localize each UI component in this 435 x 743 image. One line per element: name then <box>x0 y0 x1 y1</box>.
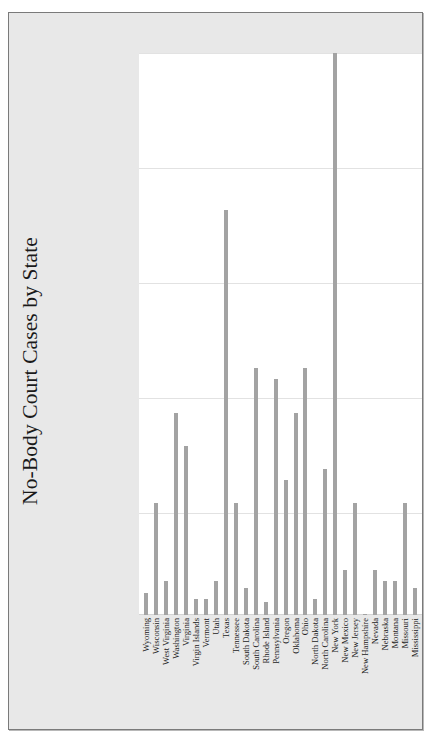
x-label-slot: Nebraska <box>380 616 390 728</box>
chart-title-container: No-Body Court Cases by State <box>9 13 47 729</box>
bar-slot <box>360 53 370 615</box>
x-label-slot: Texas <box>221 616 231 728</box>
x-axis-label: Virgin Islands <box>191 618 201 666</box>
x-label-slot: Washington <box>171 616 181 728</box>
bar-slot <box>251 53 261 615</box>
x-axis-label: Nebraska <box>380 618 390 650</box>
x-label-slot: Utah <box>211 616 221 728</box>
x-axis-label: Montana <box>390 618 400 649</box>
x-label-slot: Mississippi <box>410 616 420 728</box>
bar-slot <box>271 53 281 615</box>
bar[interactable] <box>214 581 218 615</box>
x-axis-label: Texas <box>221 618 231 638</box>
bar[interactable] <box>244 588 248 615</box>
x-axis-label: Ohio <box>300 618 310 635</box>
bar-slot <box>340 53 350 615</box>
bar[interactable] <box>303 368 307 615</box>
bar[interactable] <box>333 53 337 615</box>
bar-slot <box>380 53 390 615</box>
x-label-slot: Rhode Island <box>261 616 271 728</box>
bar[interactable] <box>284 480 288 615</box>
x-axis-label: Vermont <box>201 618 211 648</box>
x-axis-label: North Carolina <box>320 618 330 670</box>
x-axis-label: Utah <box>211 618 221 635</box>
x-label-slot: Pennsylvania <box>271 616 281 728</box>
bar-slot <box>141 53 151 615</box>
bar-slot <box>191 53 201 615</box>
x-axis-label: Pennsylvania <box>271 618 281 664</box>
bar-slot <box>231 53 241 615</box>
x-axis-label: New York <box>330 618 340 653</box>
x-label-slot: Wisconsin <box>151 616 161 728</box>
x-axis-label: Nevada <box>370 618 380 644</box>
bar[interactable] <box>164 581 168 615</box>
x-label-slot: Ohio <box>301 616 311 728</box>
bar-slot <box>400 53 410 615</box>
x-axis-label: Washington <box>171 618 181 659</box>
bar-slot <box>171 53 181 615</box>
x-label-slot: Oregon <box>281 616 291 728</box>
bar-slot <box>151 53 161 615</box>
x-label-slot: New Jersey <box>350 616 360 728</box>
bar[interactable] <box>393 581 397 615</box>
x-axis-label: Missouri <box>400 618 410 649</box>
bar[interactable] <box>343 570 347 615</box>
bar[interactable] <box>383 581 387 615</box>
x-label-slot: Tennessee <box>231 616 241 728</box>
bar[interactable] <box>154 503 158 615</box>
bar-slot <box>330 53 340 615</box>
bar[interactable] <box>234 503 238 615</box>
bar[interactable] <box>313 599 317 615</box>
bar[interactable] <box>194 599 198 615</box>
bar-slot <box>320 53 330 615</box>
bar-slot <box>281 53 291 615</box>
chart-frame: No-Body Court Cases by State WyomingWisc… <box>8 12 423 730</box>
x-label-slot: Nevada <box>370 616 380 728</box>
bar-slot <box>241 53 251 615</box>
bar[interactable] <box>363 614 367 615</box>
x-axis-label: West Virginia <box>161 618 171 665</box>
bar[interactable] <box>323 469 327 615</box>
bar-slot <box>301 53 311 615</box>
bar-slot <box>390 53 400 615</box>
bar-slot <box>350 53 360 615</box>
bar[interactable] <box>264 602 268 615</box>
bar[interactable] <box>254 368 258 615</box>
x-label-slot: Vermont <box>201 616 211 728</box>
bar[interactable] <box>184 446 188 615</box>
bar[interactable] <box>174 413 178 615</box>
x-label-slot: Wyoming <box>141 616 151 728</box>
bar-series <box>139 53 422 615</box>
bar[interactable] <box>294 413 298 615</box>
x-label-slot: Missouri <box>400 616 410 728</box>
x-axis-label: Wyoming <box>141 618 151 652</box>
bar-slot <box>211 53 221 615</box>
bar[interactable] <box>144 593 148 615</box>
x-label-slot: New York <box>330 616 340 728</box>
x-axis-label: Virginia <box>181 618 191 646</box>
x-axis-label: New Mexico <box>340 618 350 663</box>
bar[interactable] <box>274 379 278 615</box>
chart-title: No-Body Court Cases by State <box>11 51 49 691</box>
bar-slot <box>221 53 231 615</box>
x-axis-label: Oregon <box>281 618 291 644</box>
bar-slot <box>310 53 320 615</box>
bar-slot <box>201 53 211 615</box>
bar[interactable] <box>224 210 228 615</box>
bar[interactable] <box>413 588 417 615</box>
plot-area <box>139 53 422 615</box>
x-axis-labels: WyomingWisconsinWest VirginiaWashingtonV… <box>139 616 422 728</box>
x-label-slot: New Hampshire <box>360 616 370 728</box>
x-label-slot: South Dakota <box>241 616 251 728</box>
x-axis-label: South Dakota <box>241 618 251 665</box>
bar-slot <box>161 53 171 615</box>
bar[interactable] <box>373 570 377 615</box>
bar[interactable] <box>204 599 208 615</box>
bar-slot <box>410 53 420 615</box>
x-axis-label: South Carolina <box>251 618 261 670</box>
bar[interactable] <box>403 503 407 615</box>
x-label-slot: Oklahoma <box>291 616 301 728</box>
bar[interactable] <box>353 503 357 615</box>
x-axis-label: Tennessee <box>231 618 241 653</box>
x-axis-label: Rhode Island <box>261 618 271 664</box>
